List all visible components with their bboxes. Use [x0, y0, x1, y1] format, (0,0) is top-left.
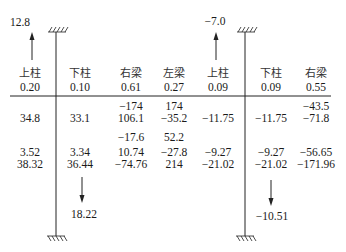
right-top-fixed-support-icon: [237, 27, 257, 32]
moment-value: −27.8: [161, 146, 188, 158]
left-top-fixed-support-icon: [48, 27, 68, 32]
column-header-label: 上柱: [19, 68, 41, 80]
moment-value: −174: [119, 100, 143, 112]
moment-value: 52.2: [164, 131, 184, 143]
moment-value: −21.02: [202, 158, 234, 170]
right-bottom-down-arrow-icon: [269, 180, 274, 206]
column-header-label: 左梁: [163, 68, 185, 80]
moment-value: 10.74: [118, 146, 144, 158]
moment-value: 36.44: [67, 158, 93, 170]
moment-value: 3.52: [20, 146, 40, 158]
left-top-up-arrow-icon: [30, 32, 35, 60]
moment-value: 3.34: [70, 146, 90, 158]
moment-value: −35.2: [161, 112, 188, 124]
column-header-label: 上柱: [207, 68, 229, 80]
moment-value: 33.1: [70, 112, 90, 124]
column-header-label: 下柱: [69, 68, 91, 80]
right-bottom-fixed-support-icon: [236, 236, 256, 241]
moment-value: −17.6: [118, 131, 145, 143]
column-header-label: 下柱: [260, 68, 282, 80]
moment-value: 214: [165, 158, 182, 170]
moment-value: 174: [165, 100, 182, 112]
left-bottom-force-label: 18.22: [71, 208, 97, 220]
right-top-up-arrow-icon: [214, 32, 219, 60]
right-top-force-label: −7.0: [205, 15, 226, 27]
moment-value: −74.76: [115, 158, 147, 170]
moment-value: −9.27: [205, 146, 232, 158]
moment-value: 106.1: [118, 112, 144, 124]
right-bottom-force-label: −10.51: [256, 210, 288, 222]
left-bottom-down-arrow-icon: [80, 177, 85, 203]
distribution-factor: 0.20: [20, 81, 40, 93]
left-bottom-fixed-support-icon: [47, 236, 67, 241]
moment-value: 34.8: [20, 112, 40, 124]
moment-value: 38.32: [17, 158, 43, 170]
distribution-factor: 0.61: [121, 81, 141, 93]
moment-value: −9.27: [258, 146, 285, 158]
moment-value: −56.65: [300, 146, 332, 158]
moment-value: −11.75: [202, 112, 234, 124]
distribution-factor: 0.10: [70, 81, 90, 93]
left-top-force-label: 12.8: [10, 16, 30, 28]
moment-value: −11.75: [255, 112, 287, 124]
frame-lines: [0, 0, 346, 252]
distribution-factor: 0.09: [261, 81, 281, 93]
moment-value: −43.5: [303, 100, 330, 112]
moment-value: −171.96: [297, 158, 335, 170]
moment-value: −21.02: [255, 158, 287, 170]
distribution-factor: 0.09: [208, 81, 228, 93]
column-header-label: 右梁: [120, 68, 142, 80]
distribution-factor: 0.27: [164, 81, 184, 93]
distribution-factor: 0.55: [306, 81, 326, 93]
moment-value: −71.8: [303, 112, 330, 124]
column-header-label: 右梁: [305, 68, 327, 80]
